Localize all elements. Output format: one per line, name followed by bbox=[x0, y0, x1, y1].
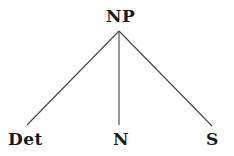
node-n: N bbox=[113, 131, 129, 148]
node-s: S bbox=[206, 131, 219, 148]
node-np: NP bbox=[106, 8, 135, 25]
edge-np-s bbox=[119, 31, 212, 126]
node-det: Det bbox=[8, 131, 43, 148]
edge-np-det bbox=[27, 31, 119, 125]
